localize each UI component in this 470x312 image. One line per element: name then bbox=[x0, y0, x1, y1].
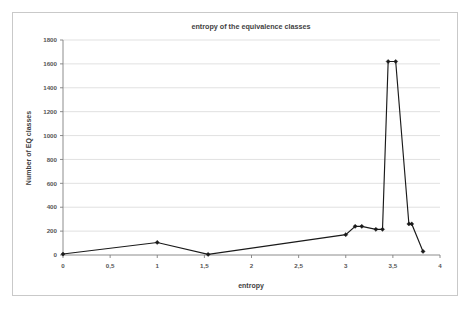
y-tick-label: 1200 bbox=[43, 108, 57, 115]
x-axis-title: entropy bbox=[238, 282, 264, 290]
y-tick-label: 400 bbox=[47, 203, 58, 210]
y-tick-label: 0 bbox=[54, 251, 58, 258]
data-point-marker bbox=[421, 249, 425, 253]
y-tick-label: 1400 bbox=[43, 84, 57, 91]
y-tick-label: 1800 bbox=[43, 36, 57, 43]
y-tick-label: 200 bbox=[47, 227, 58, 234]
data-point-marker bbox=[386, 59, 390, 63]
figure-canvas: 020040060080010001200140016001800 00,511… bbox=[0, 0, 470, 312]
y-axis-title: Number of EQ classes bbox=[25, 111, 33, 185]
data-point-marker bbox=[394, 59, 398, 63]
x-tick-label: 4 bbox=[438, 262, 442, 269]
x-tick-label: 3 bbox=[344, 262, 348, 269]
series-line-number-of-eq-classes bbox=[63, 62, 423, 255]
entropy-line-chart: 020040060080010001200140016001800 00,511… bbox=[0, 0, 470, 312]
x-tick-label: 1 bbox=[156, 262, 160, 269]
x-tick-label: 3,5 bbox=[389, 262, 398, 269]
series-markers-group bbox=[61, 59, 425, 256]
x-tick-label: 2 bbox=[250, 262, 254, 269]
x-tick-label: 0 bbox=[61, 262, 65, 269]
data-point-marker bbox=[360, 224, 364, 228]
x-axis-tick-labels: 00,511,522,533,54 bbox=[61, 262, 442, 269]
x-tick-label: 0,5 bbox=[106, 262, 115, 269]
x-tick-label: 2,5 bbox=[294, 262, 303, 269]
data-point-marker bbox=[61, 252, 65, 256]
y-tick-label: 600 bbox=[47, 180, 58, 187]
data-point-marker bbox=[410, 222, 414, 226]
y-axis-tick-labels: 020040060080010001200140016001800 bbox=[43, 36, 57, 258]
data-point-marker bbox=[155, 240, 159, 244]
x-tick-label: 1,5 bbox=[200, 262, 209, 269]
y-tick-label: 1600 bbox=[43, 60, 57, 67]
y-tick-label: 1000 bbox=[43, 132, 57, 139]
chart-title: entropy of the equivalence classes bbox=[191, 22, 310, 31]
data-point-marker bbox=[206, 252, 210, 256]
y-tick-label: 800 bbox=[47, 156, 58, 163]
